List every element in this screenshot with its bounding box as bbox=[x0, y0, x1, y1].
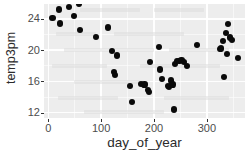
x-tick-label: 200 bbox=[145, 123, 163, 134]
data-point bbox=[57, 20, 63, 26]
x-tick-label: 300 bbox=[198, 123, 216, 134]
data-point bbox=[77, 27, 83, 33]
gridline-major-vertical bbox=[100, 4, 101, 118]
data-point bbox=[157, 66, 163, 72]
data-point bbox=[114, 52, 120, 58]
data-point bbox=[93, 34, 99, 40]
background-artifact bbox=[154, 8, 204, 12]
y-tick-label: 20 bbox=[18, 45, 40, 56]
gridline-major-vertical bbox=[48, 4, 49, 118]
data-point bbox=[112, 72, 118, 78]
data-point bbox=[49, 15, 55, 21]
gridline-major-vertical bbox=[153, 4, 154, 118]
data-point bbox=[229, 37, 235, 43]
data-point bbox=[169, 81, 175, 87]
data-point bbox=[184, 63, 190, 69]
data-point bbox=[129, 99, 135, 105]
x-tick-label: 100 bbox=[92, 123, 110, 134]
x-axis-title: day_of_year bbox=[44, 136, 245, 151]
data-point bbox=[127, 83, 133, 89]
data-point bbox=[218, 45, 224, 51]
gridline-major-vertical bbox=[206, 4, 207, 118]
data-point bbox=[235, 55, 241, 61]
data-point bbox=[105, 24, 111, 30]
scatter-plot: temp3pm 12162024 0100200300 day_of_year bbox=[0, 0, 251, 159]
y-tick-label: 24 bbox=[18, 13, 40, 24]
data-point bbox=[225, 21, 231, 27]
data-point bbox=[224, 51, 230, 57]
data-point bbox=[56, 6, 62, 12]
data-point bbox=[71, 13, 77, 19]
data-point bbox=[66, 4, 72, 10]
gridline-minor-vertical bbox=[74, 4, 75, 118]
data-point bbox=[146, 89, 152, 95]
data-point bbox=[171, 106, 177, 112]
plot-panel bbox=[44, 4, 245, 118]
data-point bbox=[221, 74, 227, 80]
x-tick-label: 0 bbox=[45, 123, 51, 134]
background-artifact bbox=[80, 8, 140, 12]
data-point bbox=[159, 76, 165, 82]
y-tick-label-group: 12162024 bbox=[18, 0, 40, 159]
gridline-minor-vertical bbox=[127, 4, 128, 118]
data-point bbox=[76, 4, 82, 7]
y-tick-label: 12 bbox=[18, 107, 40, 118]
gridline-minor-vertical bbox=[233, 4, 234, 118]
data-point bbox=[220, 38, 226, 44]
data-point bbox=[194, 42, 200, 48]
y-tick-label: 16 bbox=[18, 76, 40, 87]
